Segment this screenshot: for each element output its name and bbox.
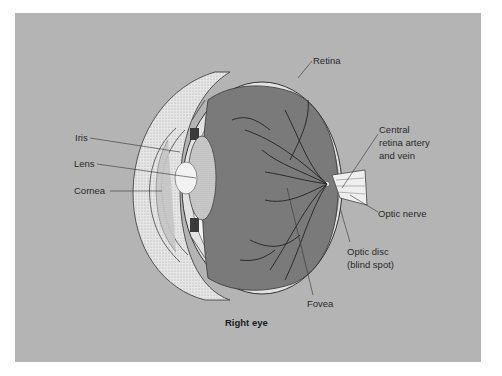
label-central-artery-1: Central (379, 123, 410, 136)
label-central-artery-2: retina artery (379, 136, 430, 149)
label-optic-disc-1: Optic disc (347, 245, 389, 258)
label-retina: Retina (313, 54, 340, 67)
label-optic-nerve: Optic nerve (378, 207, 427, 220)
label-fovea: Fovea (307, 297, 333, 310)
caption: Right eye (225, 317, 268, 328)
label-lens: Lens (74, 157, 95, 170)
label-iris: Iris (75, 131, 88, 144)
label-cornea: Cornea (74, 184, 105, 197)
label-optic-disc-2: (blind spot) (347, 258, 394, 271)
label-central-artery-3: and vein (379, 149, 415, 162)
